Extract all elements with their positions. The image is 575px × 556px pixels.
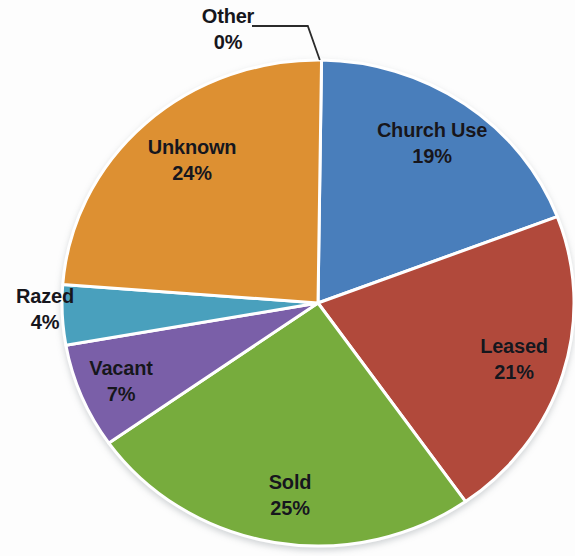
- pie-label-unknown-name: Unknown: [122, 135, 262, 161]
- pie-label-other-value: 0%: [168, 30, 288, 56]
- pie-label-razed-name: Razed: [0, 284, 90, 310]
- pie-label-vacant: Vacant 7%: [66, 356, 176, 407]
- pie-label-vacant-name: Vacant: [66, 356, 176, 382]
- pie-label-leased-name: Leased: [462, 334, 566, 360]
- pie-label-sold-name: Sold: [238, 470, 342, 496]
- pie-label-razed: Razed 4%: [0, 284, 90, 335]
- pie-label-church-use-name: Church Use: [352, 118, 512, 144]
- pie-label-sold-value: 25%: [238, 496, 342, 522]
- pie-label-other-name: Other: [168, 4, 288, 30]
- pie-label-unknown: Unknown 24%: [122, 135, 262, 186]
- pie-label-vacant-value: 7%: [66, 382, 176, 408]
- pie-label-leased-value: 21%: [462, 360, 566, 386]
- pie-label-other: Other 0%: [168, 4, 288, 55]
- pie-label-church-use-value: 19%: [352, 144, 512, 170]
- pie-label-razed-value: 4%: [0, 310, 90, 336]
- pie-chart: Other 0% Church Use 19% Leased 21% Sold …: [0, 0, 575, 556]
- pie-label-sold: Sold 25%: [238, 470, 342, 521]
- pie-label-leased: Leased 21%: [462, 334, 566, 385]
- pie-label-unknown-value: 24%: [122, 161, 262, 187]
- pie-label-church-use: Church Use 19%: [352, 118, 512, 169]
